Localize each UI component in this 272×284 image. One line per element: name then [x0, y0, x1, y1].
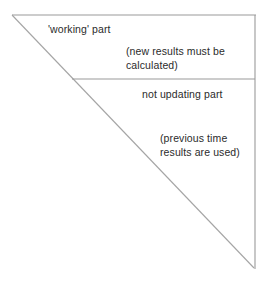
label-previous-time: (previous time results are used) [160, 131, 240, 159]
label-working-part: 'working' part [48, 22, 111, 36]
label-new-results-line2: calculated) [126, 59, 178, 71]
label-new-results: (new results must be calculated) [126, 44, 225, 72]
label-previous-time-line2: results are used) [160, 146, 240, 158]
label-not-updating-part: not updating part [142, 87, 223, 101]
label-new-results-line1: (new results must be [126, 45, 225, 57]
label-previous-time-line1: (previous time [160, 132, 227, 144]
diagram-canvas: 'working' part (new results must be calc… [0, 0, 272, 284]
